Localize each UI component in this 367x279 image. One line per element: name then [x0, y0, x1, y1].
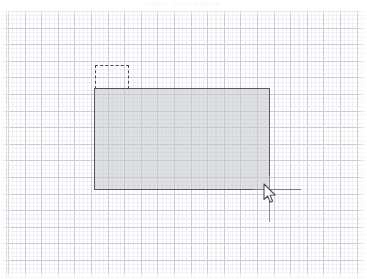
canvas-edge-fade-right — [357, 9, 367, 279]
canvas-edge-fade-bottom — [0, 271, 367, 279]
canvas-edge-fade-left — [0, 9, 10, 279]
canvas-edge-fade-top — [0, 9, 367, 15]
drawing-canvas[interactable] — [0, 9, 367, 279]
drawing-app-window: Untitled - Drawing Canvas — [0, 0, 367, 279]
window-title: Untitled - Drawing Canvas — [0, 0, 367, 9]
